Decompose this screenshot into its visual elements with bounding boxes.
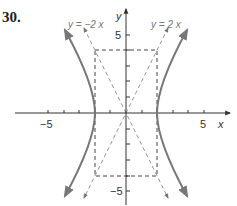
y-tick-label-neg: −5	[110, 185, 123, 197]
hyperbola-graph: −5 5 x y 5 −5 y = −2 x y = 2 x	[0, 0, 237, 206]
x-tick-label-neg: −5	[40, 118, 53, 130]
asymptote-pos-label: y = 2 x	[150, 19, 182, 30]
asymptote-neg-label: y = −2 x	[67, 19, 105, 30]
y-axis-label: y	[115, 10, 123, 22]
x-tick-label-pos: 5	[200, 118, 206, 130]
y-tick-label-pos: 5	[115, 29, 121, 41]
x-axis-label: x	[217, 118, 224, 130]
